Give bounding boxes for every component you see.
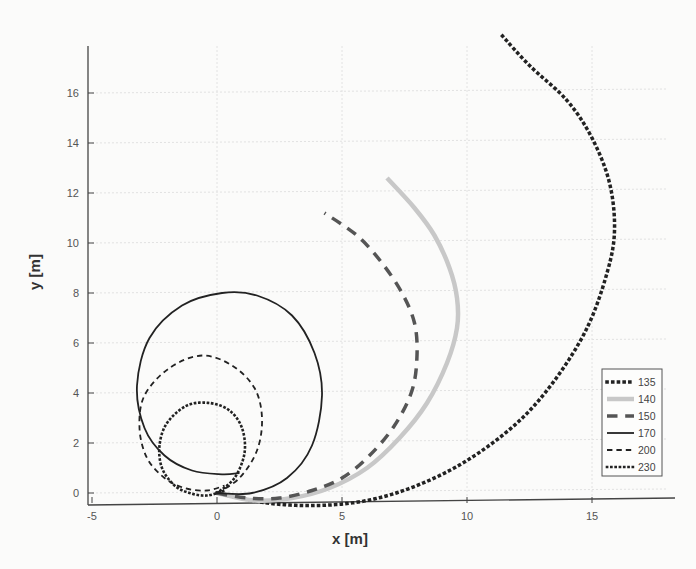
- x-tick-label: -5: [87, 510, 97, 522]
- y-tick-label: 14: [67, 137, 79, 149]
- y-tick-label: 12: [67, 187, 79, 199]
- y-tick-label: 10: [67, 237, 79, 249]
- legend-label-230: 230: [638, 461, 656, 473]
- legend-label-140: 140: [638, 393, 656, 405]
- y-tick-label: 6: [73, 337, 79, 349]
- y-tick-label: 2: [73, 437, 79, 449]
- x-tick-label: 0: [214, 510, 220, 522]
- trajectory-chart: -50510150246810121416 x [m] y [m] 135140…: [0, 0, 696, 569]
- legend-label-150: 150: [638, 410, 656, 422]
- y-tick-label: 0: [73, 487, 79, 499]
- y-tick-label: 8: [73, 287, 79, 299]
- x-axis-label: x [m]: [332, 530, 368, 547]
- y-tick-label: 16: [67, 87, 79, 99]
- y-axis-label: y [m]: [26, 254, 43, 290]
- x-tick-label: 5: [339, 510, 345, 522]
- x-tick-label: 15: [586, 510, 598, 522]
- legend-label-170: 170: [638, 427, 656, 439]
- legend: 135140150170200230: [602, 369, 662, 476]
- x-tick-label: 10: [461, 510, 473, 522]
- legend-label-135: 135: [638, 376, 656, 388]
- y-tick-label: 4: [73, 387, 79, 399]
- legend-label-200: 200: [638, 444, 656, 456]
